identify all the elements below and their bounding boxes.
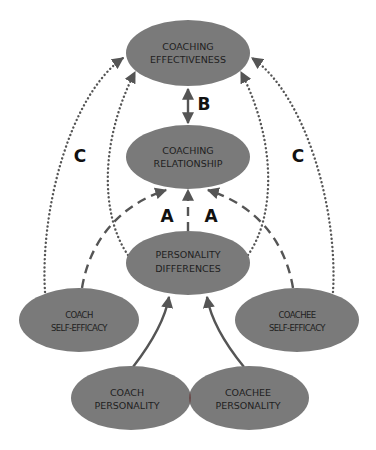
node-label-line1: COACH [110,387,144,398]
node-coaching-relationship: COACHING RELATIONSHIP [126,125,250,189]
node-label-line2: SELF-EFFICACY [269,323,326,333]
edge-coach-self-efficacy-to-effectiveness [44,58,123,292]
node-label-line2: SELF-EFFICACY [51,323,108,333]
node-label-line1: COACHING [162,145,213,156]
node-label-line2: RELATIONSHIP [154,158,223,169]
node-label-line1: COACH [65,310,93,320]
diagram-canvas: COACHING EFFECTIVENESS COACHING RELATION… [0,0,376,450]
node-label-line1: COACHEE [225,387,271,398]
edge-coach-personality-to-differences [133,297,169,367]
node-label-line2: PERSONALITY [94,400,159,411]
edge-coachee-self-efficacy-to-effectiveness [252,58,334,292]
node-coach-self-efficacy: COACH SELF-EFFICACY [19,288,139,352]
edge-coachee-personality-to-differences [207,297,244,367]
node-label-line2: PERSONALITY [215,400,280,411]
node-label-line1: COACHING [162,41,213,52]
path-label-b: B [198,94,211,114]
node-label-line2: DIFFERENCES [155,263,220,274]
node-label-line1: PERSONALITY [155,249,220,260]
node-label-line2: EFFECTIVENESS [150,54,226,65]
node-label-line1: COACHEE [278,310,315,320]
node-coachee-personality: COACHEE PERSONALITY [189,366,309,430]
path-label-c-left: C [74,146,86,166]
node-coaching-effectiveness: COACHING EFFECTIVENESS [126,20,250,86]
node-personality-differences: PERSONALITY DIFFERENCES [126,231,250,295]
node-coach-personality: COACH PERSONALITY [71,366,191,430]
path-label-a-right: A [204,206,218,226]
path-label-a-left: A [160,206,174,226]
node-coachee-self-efficacy: COACHEE SELF-EFFICACY [235,288,359,352]
path-label-c-right: C [292,146,304,166]
